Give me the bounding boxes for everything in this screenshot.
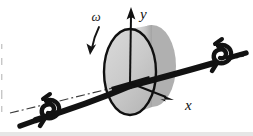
figure-canvas: ω y x: [0, 0, 253, 136]
scan-edge-bottom: [0, 132, 253, 136]
omega-label: ω: [91, 9, 100, 24]
y-axis-label: y: [138, 6, 147, 22]
x-axis-label: x: [184, 97, 192, 113]
y-axis-line: [130, 16, 131, 83]
mechanics-diagram-svg: ω y x: [0, 0, 253, 136]
